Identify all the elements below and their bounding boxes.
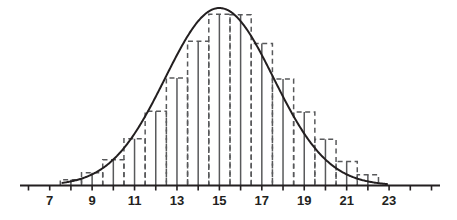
x-axis-tick-label: 9 [89, 193, 96, 208]
normal-density-curve [62, 8, 387, 184]
x-axis-tick-label: 23 [382, 193, 396, 208]
x-axis-tick-label: 19 [297, 193, 311, 208]
normal-distribution-chart: 7911131517192123 [0, 0, 457, 220]
x-axis-tick-label: 11 [128, 193, 142, 208]
chart-canvas: 7911131517192123 [0, 0, 457, 220]
x-axis-tick-label: 17 [255, 193, 269, 208]
x-axis-tick-label: 7 [46, 193, 53, 208]
density-curve-group [62, 8, 387, 184]
x-axis-tick-label: 13 [170, 193, 184, 208]
x-axis-tick-label: 15 [212, 193, 226, 208]
x-axis-group [20, 186, 440, 191]
x-axis-tick-labels-group: 7911131517192123 [46, 193, 396, 208]
x-axis-tick-label: 21 [339, 193, 353, 208]
